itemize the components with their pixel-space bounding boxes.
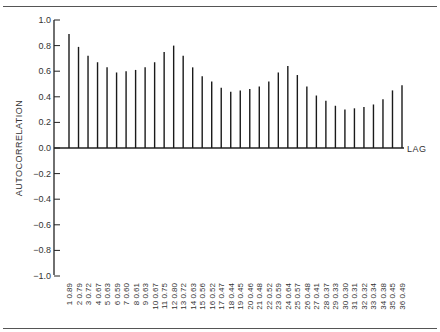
x-tick-label: 26 0.48 <box>303 282 312 309</box>
y-tick-label: 0.8 <box>38 41 51 51</box>
x-tick-label: 34 0.38 <box>379 282 388 309</box>
x-tick-label: 3 0.72 <box>84 282 93 305</box>
x-tick-label: 27 0.41 <box>312 282 321 309</box>
x-tick-label: 30 0.30 <box>341 282 350 309</box>
x-tick-label: 12 0.80 <box>170 282 179 309</box>
x-tick-label: 15 0.56 <box>198 282 207 309</box>
y-tick-label: −0.2 <box>33 169 51 179</box>
x-tick-label: 17 0.47 <box>217 282 226 309</box>
x-tick-label: 9 0.63 <box>141 282 150 305</box>
y-tick-label: −0.4 <box>33 194 51 204</box>
x-tick-label: 7 0.60 <box>122 282 131 305</box>
x-tick-label: 5 0.63 <box>103 282 112 305</box>
x-tick-label: 20 0.46 <box>246 282 255 309</box>
x-tick-label: 35 0.45 <box>388 282 397 309</box>
bars <box>69 34 402 148</box>
x-tick-label: 29 0.33 <box>331 282 340 309</box>
x-tick-label: 23 0.59 <box>274 282 283 309</box>
x-tick-label: 25 0.57 <box>293 282 302 309</box>
x-axis-label: LAG <box>407 144 427 154</box>
x-tick-label: 21 0.48 <box>255 282 264 309</box>
y-tick-label: 1.0 <box>38 15 51 25</box>
x-tick-label: 24 0.64 <box>284 282 293 309</box>
x-tick-label: 32 0.32 <box>360 282 369 309</box>
x-tick-label: 33 0.34 <box>369 282 378 309</box>
x-tick-labels: 1 0.892 0.793 0.724 0.675 0.636 0.597 0.… <box>65 282 407 309</box>
x-tick-label: 31 0.31 <box>350 282 359 309</box>
x-tick-label: 11 0.75 <box>160 282 169 309</box>
x-tick-label: 14 0.63 <box>189 282 198 309</box>
x-tick-label: 36 0.49 <box>398 282 407 309</box>
y-tick-label: 0.4 <box>38 92 51 102</box>
x-tick-label: 4 0.67 <box>94 282 103 305</box>
x-tick-label: 22 0.52 <box>265 282 274 309</box>
x-tick-label: 8 0.61 <box>132 282 141 305</box>
x-tick-label: 10 0.67 <box>151 282 160 309</box>
y-tick-label: 0.6 <box>38 66 51 76</box>
x-tick-label: 28 0.37 <box>322 282 331 309</box>
x-tick-label: 13 0.72 <box>179 282 188 309</box>
x-tick-label: 1 0.89 <box>65 282 74 305</box>
x-tick-label: 6 0.59 <box>113 282 122 305</box>
autocorrelation-chart: 1.00.80.60.40.20.0−0.2−0.4−0.6−0.8−1.0 1… <box>0 0 440 332</box>
x-tick-label: 16 0.52 <box>208 282 217 309</box>
x-tick-label: 2 0.79 <box>75 282 84 305</box>
y-axis-label: AUTOCORRELATION <box>14 100 24 197</box>
y-tick-label: −0.8 <box>33 245 51 255</box>
y-tick-label: −1.0 <box>33 271 51 281</box>
x-tick-label: 19 0.45 <box>236 282 245 309</box>
y-tick-label: 0.2 <box>38 117 51 127</box>
y-tick-label: 0.0 <box>38 143 51 153</box>
x-tick-label: 18 0.44 <box>227 282 236 309</box>
y-tick-label: −0.6 <box>33 220 51 230</box>
